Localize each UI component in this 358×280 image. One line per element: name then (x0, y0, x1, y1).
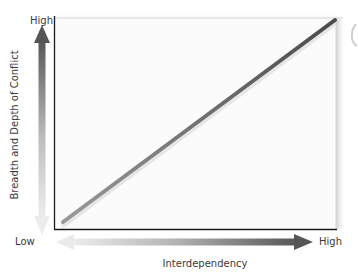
axis-low-label: Low (15, 236, 35, 248)
y-axis-arrow (34, 25, 50, 235)
conflict-interdependency-diagram: High Low High Interdependency Breadth an… (0, 0, 358, 280)
x-axis-arrow (56, 234, 313, 250)
x-axis-title: Interdependency (120, 258, 290, 269)
cropped-edge-fragment (352, 24, 357, 46)
x-axis-high-label: High (319, 236, 342, 248)
diagram-graphics (0, 0, 358, 280)
y-axis-title: Breadth and Depth of Conflict (9, 50, 20, 199)
y-axis-high-label: High (30, 15, 53, 27)
